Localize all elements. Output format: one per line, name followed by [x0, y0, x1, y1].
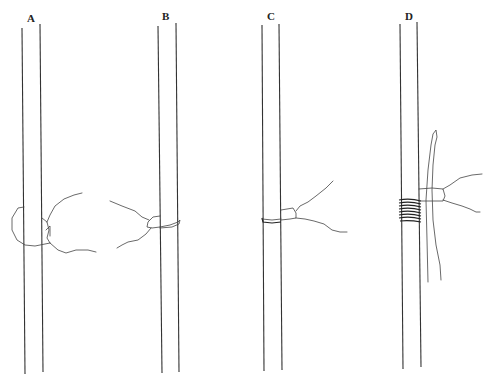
knot-diagram-figure: A B C D [0, 0, 500, 377]
leaf-loop-d [426, 130, 441, 282]
panel-b [110, 23, 180, 373]
knot-d [419, 174, 482, 212]
pole-d [400, 22, 421, 369]
knot-c [262, 181, 347, 232]
panel-c [262, 24, 347, 371]
panel-d [399, 22, 482, 369]
pole-a [22, 24, 43, 374]
knot-a [12, 193, 96, 253]
knot-b [110, 201, 180, 248]
panel-label-d: D [405, 11, 413, 22]
pole-b [158, 23, 179, 373]
panel-a [12, 24, 96, 374]
panel-label-c: C [267, 11, 275, 22]
panel-label-b: B [162, 11, 169, 22]
panel-label-a: A [27, 13, 35, 24]
lashing-coils-d [399, 199, 421, 222]
diagram-canvas [0, 0, 500, 377]
pole-c [262, 24, 282, 371]
